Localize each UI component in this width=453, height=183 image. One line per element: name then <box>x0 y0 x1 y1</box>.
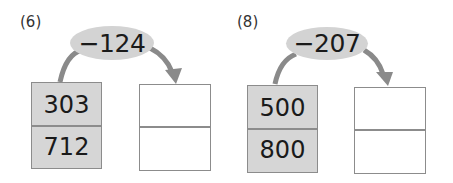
left-arc-line <box>275 54 296 84</box>
answer-cell-top[interactable] <box>140 85 210 127</box>
answer-box <box>354 87 426 174</box>
operation-text: −124 <box>79 29 146 58</box>
input-value: 712 <box>44 133 90 161</box>
arrow-arc-line <box>150 48 172 72</box>
arrow-arc-line <box>364 50 383 74</box>
input-box: 500 800 <box>247 85 318 173</box>
input-value: 800 <box>260 136 306 164</box>
arrow-head-icon <box>376 72 393 86</box>
answer-cell-top[interactable] <box>355 88 425 130</box>
answer-input[interactable] <box>357 94 424 124</box>
answer-input[interactable] <box>357 137 424 167</box>
input-cell-top: 500 <box>248 86 317 129</box>
operation-text: −207 <box>294 29 361 58</box>
problem-8: (8) −207 500 800 <box>226 0 452 183</box>
input-cell-bottom: 712 <box>32 125 101 168</box>
answer-input[interactable] <box>142 91 209 121</box>
arrow-head-icon <box>165 68 182 84</box>
answer-input[interactable] <box>142 134 209 164</box>
answer-cell-bottom[interactable] <box>140 127 210 170</box>
input-cell-top: 303 <box>32 83 101 126</box>
input-box: 303 712 <box>31 82 102 169</box>
operation-oval: −124 <box>70 26 154 60</box>
input-value: 303 <box>44 91 90 119</box>
answer-box <box>139 84 211 171</box>
answer-cell-bottom[interactable] <box>355 130 425 173</box>
operation-oval: −207 <box>286 27 368 60</box>
input-cell-bottom: 800 <box>248 128 317 172</box>
input-value: 500 <box>260 94 306 122</box>
problem-6: (6) −124 303 712 <box>0 0 226 183</box>
